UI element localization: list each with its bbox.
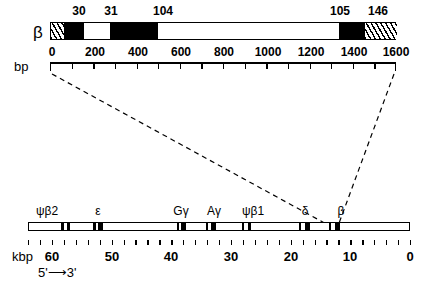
kbp-tick-60 [52, 240, 53, 245]
connector-line-left [52, 74, 330, 226]
locus-gene-psi-beta-2-a [61, 223, 64, 230]
kbp-tick-2 [398, 240, 399, 245]
kbp-label-60: 60 [45, 250, 59, 263]
direction-label: 5'⟶3' [38, 266, 76, 279]
kbp-tick-4 [386, 240, 387, 245]
locus-label-beta: β [338, 205, 345, 217]
locus-label-g-gamma: Gγ [173, 205, 188, 217]
locus-gene-epsilon-a [93, 223, 96, 230]
kbp-tick-6 [374, 240, 375, 245]
kbp-tick-58 [64, 240, 65, 245]
kbp-tick-row [28, 240, 410, 246]
kbp-tick-10 [350, 240, 351, 245]
kbp-tick-22 [279, 240, 280, 245]
kbp-label-50: 50 [105, 250, 119, 263]
kbp-label-10: 10 [343, 250, 357, 263]
kbp-tick-18 [303, 240, 304, 245]
locus-label-epsilon: ε [95, 205, 100, 217]
kbp-tick-34 [207, 240, 208, 245]
kbp-tick-32 [219, 240, 220, 245]
locus-gene-g-gamma-a [177, 223, 179, 230]
kbp-unit-label: kbp [12, 250, 33, 263]
kbp-tick-48 [124, 240, 125, 245]
locus-gene-psi-beta-2-b [67, 223, 70, 230]
locus-gene-beta-a [329, 223, 331, 230]
gene-map-figure: 30 31 104 105 146 β 0 200 400 600 800 10… [0, 0, 428, 284]
kbp-label-20: 20 [284, 250, 298, 263]
locus-label-psi-beta-1: ψβ1 [242, 205, 264, 217]
kbp-tick-26 [255, 240, 256, 245]
kbp-tick-24 [267, 240, 268, 245]
kbp-tick-12 [338, 240, 339, 245]
kbp-tick-36 [195, 240, 196, 245]
locus-gene-psi-beta-1-a [242, 223, 244, 230]
connector-line-right [338, 74, 394, 226]
kbp-tick-16 [315, 240, 316, 245]
locus-label-a-gamma: Aγ [207, 205, 221, 217]
locus-gene-psi-beta-1-b [248, 223, 251, 230]
kbp-tick-50 [112, 240, 113, 245]
kbp-label-40: 40 [164, 250, 178, 263]
locus-gene-a-gamma-a [206, 223, 208, 230]
kbp-tick-28 [243, 240, 244, 245]
kbp-tick-38 [183, 240, 184, 245]
kbp-tick-64 [28, 240, 29, 245]
locus-gene-epsilon-b [98, 223, 103, 230]
locus-label-delta: δ [302, 205, 309, 217]
kbp-tick-8 [362, 240, 363, 245]
locus-bar [28, 222, 410, 231]
kbp-tick-14 [326, 240, 327, 245]
kbp-tick-54 [88, 240, 89, 245]
kbp-tick-56 [76, 240, 77, 245]
kbp-label-0: 0 [406, 250, 413, 263]
kbp-tick-20 [291, 240, 292, 245]
kbp-tick-40 [171, 240, 172, 245]
locus-label-psi-beta-2: ψβ2 [36, 205, 58, 217]
locus-gene-a-gamma-b [211, 223, 216, 230]
kbp-tick-46 [135, 240, 136, 245]
locus-gene-beta-b [335, 223, 340, 230]
kbp-tick-62 [40, 240, 41, 245]
kbp-tick-52 [100, 240, 101, 245]
kbp-tick-44 [147, 240, 148, 245]
kbp-tick-30 [231, 240, 232, 245]
locus-gene-delta-b [305, 223, 310, 230]
locus-gene-delta-a [299, 223, 301, 230]
locus-gene-g-gamma-b [181, 223, 186, 230]
kbp-tick-0 [410, 240, 411, 245]
kbp-label-30: 30 [224, 250, 238, 263]
kbp-tick-42 [159, 240, 160, 245]
